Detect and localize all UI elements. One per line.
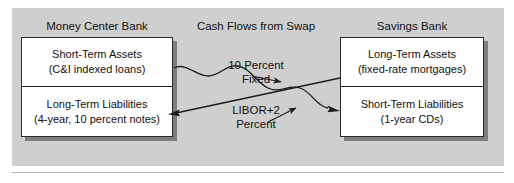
floating-rate-label-line2: Percent — [186, 117, 326, 131]
fixed-rate-label-line2: Fixed — [186, 72, 326, 86]
right-bank-balance-sheet: Long-Term Assets (fixed-rate mortgages) … — [340, 37, 484, 137]
right-bank-liabilities-cell: Short-Term Liabilities (1-year CDs) — [341, 87, 483, 136]
left-bank-assets-cell: Short-Term Assets (C&I indexed loans) — [22, 38, 172, 87]
left-bank-liabilities-cell: Long-Term Liabilities (4-year, 10 percen… — [22, 87, 172, 136]
floating-rate-label-line1: LIBOR+2 — [186, 103, 326, 117]
left-bank-liabilities-line2: (4-year, 10 percent notes) — [34, 112, 160, 127]
left-bank-assets-line2: (C&I indexed loans) — [49, 62, 146, 77]
right-bank-assets-line1: Long-Term Assets — [368, 47, 456, 62]
right-bank-assets-cell: Long-Term Assets (fixed-rate mortgages) — [341, 38, 483, 87]
floating-rate-flow-label: LIBOR+2 Percent — [186, 103, 326, 131]
right-bank-liabilities-line1: Short-Term Liabilities — [361, 97, 464, 112]
right-bank-assets-line2: (fixed-rate mortgages) — [358, 62, 466, 77]
fixed-rate-label-line1: 10 Percent — [186, 58, 326, 72]
right-bank-title: Savings Bank — [340, 20, 484, 32]
bottom-divider — [12, 172, 504, 173]
left-bank-title: Money Center Bank — [21, 20, 173, 32]
swap-cash-flow-diagram: Money Center Bank Cash Flows from Swap S… — [0, 0, 514, 183]
right-bank-liabilities-line2: (1-year CDs) — [381, 112, 444, 127]
diagram-center-title: Cash Flows from Swap — [176, 20, 336, 32]
left-bank-balance-sheet: Short-Term Assets (C&I indexed loans) Lo… — [21, 37, 173, 137]
left-bank-liabilities-line1: Long-Term Liabilities — [47, 97, 148, 112]
fixed-rate-flow-label: 10 Percent Fixed — [186, 58, 326, 86]
left-bank-assets-line1: Short-Term Assets — [52, 47, 142, 62]
